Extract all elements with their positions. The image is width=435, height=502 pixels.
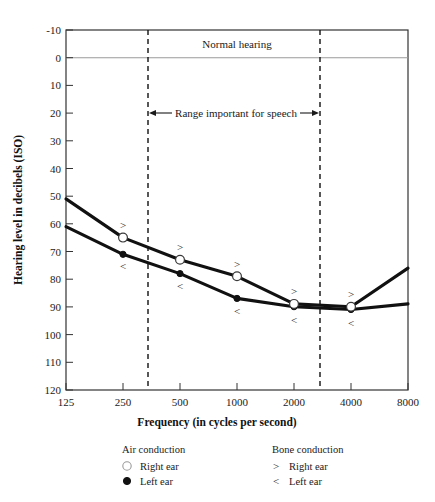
marker-open-circle bbox=[347, 302, 356, 311]
x-tick-label: 125 bbox=[58, 396, 75, 408]
legend-lt-icon: < bbox=[273, 475, 279, 487]
y-tick-label: 40 bbox=[50, 163, 62, 175]
y-tick-label: 100 bbox=[45, 329, 62, 341]
y-tick-label: 30 bbox=[50, 135, 62, 147]
legend-bone-conduction: Bone conduction > Right ear < Left ear bbox=[272, 444, 344, 487]
bone-right-glyph: > bbox=[234, 258, 240, 270]
marker-filled-circle bbox=[234, 295, 240, 301]
y-axis-title: Hearing level in decibels (ISO) bbox=[12, 135, 25, 285]
x-tick-label: 4000 bbox=[340, 396, 363, 408]
marker-open-circle bbox=[119, 233, 128, 242]
y-tick-label: 70 bbox=[50, 246, 62, 258]
bone-right-glyph: > bbox=[177, 241, 183, 253]
y-tick-label: 10 bbox=[50, 79, 62, 91]
normal-hearing-label: Normal hearing bbox=[202, 38, 272, 50]
legend-air-conduction: Air conduction Right ear Left ear bbox=[122, 444, 186, 487]
legend-bone-left-label: Left ear bbox=[289, 476, 322, 487]
bone-left-glyph: < bbox=[177, 280, 183, 292]
y-tick-label: 120 bbox=[45, 384, 62, 396]
bone-right-glyph: > bbox=[348, 288, 354, 300]
audiogram-svg: -10 0 10 20 30 40 50 60 70 80 90 100 110… bbox=[0, 0, 435, 502]
x-tick-label: 250 bbox=[115, 396, 132, 408]
legend-bone-heading: Bone conduction bbox=[272, 444, 344, 455]
marker-filled-circle bbox=[177, 271, 183, 277]
legend-filled-circle-icon bbox=[123, 477, 130, 484]
plot-frame bbox=[66, 30, 408, 390]
legend-air-heading: Air conduction bbox=[122, 444, 186, 455]
y-tick-label: 20 bbox=[50, 107, 62, 119]
marker-open-circle bbox=[233, 272, 242, 281]
y-tick-label: 0 bbox=[56, 52, 62, 64]
y-tick-label: 50 bbox=[50, 190, 62, 202]
marker-open-circle bbox=[176, 255, 185, 264]
x-tick-label: 8000 bbox=[397, 396, 420, 408]
legend-air-right-label: Right ear bbox=[140, 461, 179, 472]
y-tick-label: 80 bbox=[50, 273, 62, 285]
y-tick-label: 90 bbox=[50, 301, 62, 313]
x-axis-title: Frequency (in cycles per second) bbox=[137, 416, 296, 429]
bone-left-glyph: < bbox=[348, 317, 354, 329]
speech-range-label: Range important for speech bbox=[175, 107, 297, 119]
marker-open-circle bbox=[290, 300, 299, 309]
bone-left-glyph: < bbox=[234, 305, 240, 317]
x-tick-label: 1000 bbox=[226, 396, 249, 408]
bone-left-glyph: < bbox=[291, 314, 297, 326]
speech-range-annotation: Range important for speech bbox=[149, 107, 319, 119]
y-tick-label: 110 bbox=[45, 356, 62, 368]
legend-bone-right-label: Right ear bbox=[289, 461, 328, 472]
legend-open-circle-icon bbox=[123, 462, 131, 470]
audiogram-figure: -10 0 10 20 30 40 50 60 70 80 90 100 110… bbox=[0, 0, 435, 502]
bone-right-glyph: > bbox=[120, 219, 126, 231]
legend-gt-icon: > bbox=[273, 460, 279, 472]
marker-filled-circle bbox=[120, 251, 126, 257]
x-tick-label: 500 bbox=[172, 396, 189, 408]
bone-left-glyph: < bbox=[120, 260, 126, 272]
bone-right-glyph: > bbox=[291, 285, 297, 297]
y-tick-label: 60 bbox=[50, 218, 62, 230]
x-tick-label: 2000 bbox=[283, 396, 306, 408]
y-axis-tick-labels: -10 0 10 20 30 40 50 60 70 80 90 100 110… bbox=[45, 24, 62, 396]
x-axis-tick-labels: 125 250 500 1000 2000 4000 8000 bbox=[58, 396, 420, 408]
legend-air-left-label: Left ear bbox=[140, 476, 173, 487]
y-tick-label: -10 bbox=[46, 24, 61, 36]
